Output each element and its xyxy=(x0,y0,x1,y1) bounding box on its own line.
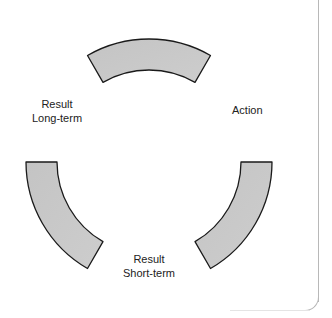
label-result-short-term: Result Short-term xyxy=(114,252,184,280)
arc-segment-right xyxy=(195,162,272,269)
label-result-long-term: Result Long-term xyxy=(22,97,92,125)
short-term-line2: Short-term xyxy=(114,266,184,280)
frame-border-bottom xyxy=(230,310,310,311)
action-text: Action xyxy=(232,104,263,116)
frame-border-right xyxy=(318,0,319,302)
long-term-line1: Result xyxy=(22,97,92,111)
label-action: Action xyxy=(232,103,263,117)
short-term-line1: Result xyxy=(114,252,184,266)
long-term-line2: Long-term xyxy=(22,111,92,125)
arc-segment-left xyxy=(26,162,103,269)
arc-segment-top xyxy=(88,39,211,82)
